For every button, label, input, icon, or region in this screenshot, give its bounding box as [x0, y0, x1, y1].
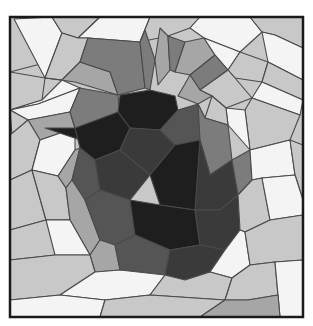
strawberry-mosaic-image	[0, 0, 313, 326]
polygon-layer	[10, 17, 303, 317]
mosaic-polygon	[10, 295, 105, 317]
